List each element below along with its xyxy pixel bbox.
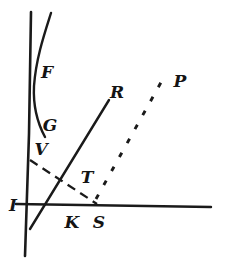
label-t: T — [81, 167, 95, 187]
label-r: R — [109, 82, 124, 102]
label-i: I — [8, 195, 18, 215]
label-p: P — [173, 71, 188, 91]
label-f: F — [40, 62, 55, 82]
dotted-line-p — [96, 77, 164, 199]
label-v: V — [34, 139, 49, 159]
figure-container: F G V I K S T R P — [0, 0, 227, 260]
geometric-diagram: F G V I K S T R P — [0, 0, 227, 260]
label-g: G — [43, 115, 58, 135]
vertical-axis-line — [25, 12, 31, 256]
label-s: S — [93, 212, 105, 232]
label-k: K — [64, 212, 81, 232]
